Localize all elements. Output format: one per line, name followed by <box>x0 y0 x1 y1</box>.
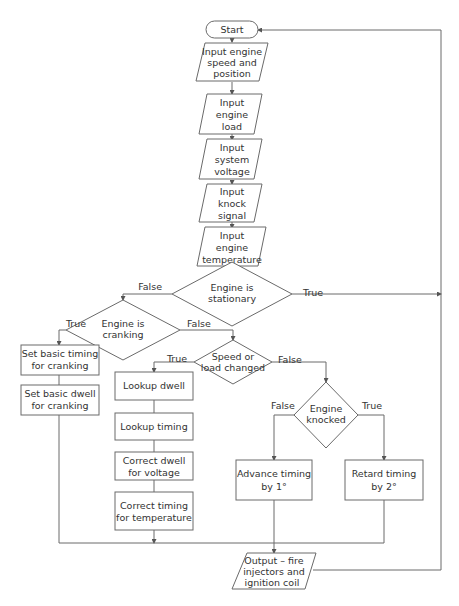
node-decision-stationary-line-2: stationary <box>208 293 256 304</box>
node-retard-timing-line-2: by 2° <box>371 481 396 492</box>
edge-cranking-false <box>180 330 233 340</box>
node-lookup-timing-label: Lookup timing <box>120 421 187 432</box>
node-input-speed: Input engine speed and position <box>196 43 268 81</box>
node-input-speed-line-3: position <box>213 68 251 79</box>
node-decision-knocked: Engine knocked <box>294 382 358 448</box>
node-lookup-timing: Lookup timing <box>115 413 193 440</box>
node-retard-timing: Retard timing by 2° <box>345 460 423 500</box>
node-input-load-line-3: load <box>222 121 242 132</box>
node-lookup-dwell-label: Lookup dwell <box>123 380 185 391</box>
flowchart: Start Input engine speed and position In… <box>0 0 459 606</box>
edge-stationary-false <box>123 294 172 300</box>
node-decision-stationary-line-1: Engine is <box>210 282 253 293</box>
node-input-voltage-line-1: Input <box>220 142 245 153</box>
label-cranking-true: True <box>65 318 86 329</box>
label-knocked-false: False <box>271 400 295 411</box>
label-stationary-true: True <box>302 287 323 298</box>
node-input-knock-line-1: Input <box>220 186 245 197</box>
node-input-voltage-line-3: voltage <box>214 166 250 177</box>
node-set-dwell-cranking-line-2: for cranking <box>31 400 88 411</box>
node-decision-speed-load-line-2: load changed <box>201 362 265 373</box>
node-input-voltage: Input system voltage <box>199 139 262 179</box>
node-input-load-line-2: engine <box>216 109 249 120</box>
node-decision-speed-load: Speed or load changed <box>194 340 272 384</box>
node-decision-knocked-line-1: Engine <box>310 403 343 414</box>
node-decision-cranking-line-2: cranking <box>102 329 143 340</box>
edge-knocked-true <box>358 415 384 460</box>
node-input-temperature: Input engine temperature <box>197 227 266 266</box>
label-knocked-true: True <box>361 400 382 411</box>
node-decision-speed-load-line-1: Speed or <box>212 351 255 362</box>
label-speed-true: True <box>166 353 187 364</box>
node-start-label: Start <box>220 24 243 35</box>
node-decision-cranking-line-1: Engine is <box>101 318 144 329</box>
node-input-load: Input engine load <box>199 94 262 134</box>
node-correct-timing: Correct timing for temperature <box>115 492 193 530</box>
node-correct-dwell: Correct dwell for voltage <box>115 452 193 480</box>
node-advance-timing-line-1: Advance timing <box>237 468 311 479</box>
edge-cranking-true <box>59 330 66 345</box>
node-correct-dwell-line-1: Correct dwell <box>123 455 186 466</box>
edge-speed-false <box>272 362 326 382</box>
node-correct-timing-line-1: Correct timing <box>120 500 188 511</box>
node-set-dwell-cranking: Set basic dwell for cranking <box>21 385 99 415</box>
label-stationary-false: False <box>138 281 162 292</box>
node-output: Output – fire injectors and ignition coi… <box>232 553 316 589</box>
node-output-line-1: Output – fire <box>244 555 303 566</box>
node-input-temperature-line-2: engine <box>216 242 249 253</box>
node-input-speed-line-1: Input engine <box>202 46 262 57</box>
node-output-line-2: injectors and <box>243 566 305 577</box>
node-decision-stationary: Engine is stationary <box>172 262 292 326</box>
node-input-load-line-1: Input <box>220 97 245 108</box>
node-decision-knocked-line-2: knocked <box>306 414 346 425</box>
node-output-line-3: ignition coil <box>245 577 300 588</box>
node-lookup-dwell: Lookup dwell <box>115 372 193 400</box>
node-set-dwell-cranking-line-1: Set basic dwell <box>24 388 95 399</box>
node-input-voltage-line-2: system <box>215 154 249 165</box>
node-retard-timing-line-1: Retard timing <box>352 468 417 479</box>
node-set-timing-cranking-line-2: for cranking <box>31 360 88 371</box>
node-correct-timing-line-2: for temperature <box>116 512 192 523</box>
node-input-knock-line-2: knock <box>218 198 247 209</box>
node-input-knock: Input knock signal <box>199 184 262 222</box>
label-cranking-false: False <box>187 318 211 329</box>
label-speed-false: False <box>278 354 302 365</box>
edge-knocked-false <box>274 415 294 460</box>
node-input-speed-line-2: speed and <box>207 57 257 68</box>
node-start: Start <box>206 21 258 38</box>
node-set-timing-cranking: Set basic timing for cranking <box>21 345 99 375</box>
node-input-temperature-line-1: Input <box>220 230 245 241</box>
node-correct-dwell-line-2: for voltage <box>128 467 180 478</box>
node-set-timing-cranking-line-1: Set basic timing <box>22 348 99 359</box>
node-advance-timing: Advance timing by 1° <box>236 460 312 500</box>
node-advance-timing-line-2: by 1° <box>261 481 286 492</box>
node-input-knock-line-3: signal <box>218 210 246 221</box>
